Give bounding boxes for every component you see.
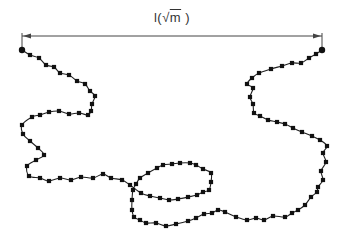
chain-bead	[101, 172, 105, 176]
chain-bead	[36, 146, 40, 150]
chain-bead	[38, 176, 42, 180]
chain-bead	[250, 76, 254, 80]
chain-bead	[319, 169, 323, 173]
chain-bead	[79, 175, 83, 179]
chain-bead	[176, 197, 180, 201]
chain-bead	[27, 174, 31, 178]
chain-bead	[86, 113, 90, 117]
chain-bead	[248, 95, 252, 99]
chain-bead	[290, 61, 294, 65]
chain-bead	[321, 178, 325, 182]
chain-bead	[194, 163, 198, 167]
chain-bead	[195, 193, 199, 197]
chain-bead	[300, 130, 304, 134]
polymer-chain-diagram	[0, 0, 344, 236]
chain-bead	[132, 215, 136, 219]
chain-bead	[131, 188, 135, 192]
chain-bead	[47, 110, 51, 114]
chain-bead	[130, 208, 134, 212]
chain-bead	[77, 111, 81, 115]
chain-bead	[303, 203, 307, 207]
chain-bead	[251, 102, 255, 106]
chain-bead	[257, 71, 261, 75]
chain-bead	[47, 179, 51, 183]
chain-bead	[167, 198, 171, 202]
chain-bead	[271, 214, 275, 218]
chain-bead	[202, 212, 206, 216]
chain-bead	[324, 160, 328, 164]
chain-bead	[154, 221, 158, 225]
chain-bead	[130, 198, 134, 202]
chain-bead	[67, 73, 71, 77]
chain-bead	[139, 191, 143, 195]
chain-end-point	[319, 47, 325, 53]
chain-bead	[251, 86, 255, 90]
chain-bead	[138, 218, 142, 222]
label-prefix: l(	[154, 10, 162, 25]
chain-bead	[194, 216, 198, 220]
chain-bead	[109, 176, 113, 180]
chain-bead	[188, 161, 192, 165]
chain-bead	[164, 224, 168, 228]
chain-start-point	[19, 47, 25, 53]
end-to-end-dimension-arrow	[22, 33, 322, 47]
chain-bead	[269, 67, 273, 71]
chain-bead	[120, 178, 124, 182]
chain-bead	[266, 118, 270, 122]
chain-bead	[44, 63, 48, 67]
chain-bead	[210, 211, 214, 215]
chain-bead	[134, 182, 138, 186]
chain-bead	[158, 196, 162, 200]
chain-bead	[88, 89, 92, 93]
chain-bead	[262, 218, 266, 222]
chain-bead	[186, 195, 190, 199]
sqrt-symbol: √	[162, 10, 170, 25]
chain-bead	[42, 153, 46, 157]
label-suffix: )	[185, 10, 190, 25]
chain-bead	[148, 194, 152, 198]
chain-bead	[34, 158, 38, 162]
chain-bead	[144, 221, 148, 225]
label-radicand: m	[170, 10, 181, 25]
chain-bead	[28, 53, 32, 57]
chain-bead	[155, 166, 159, 170]
right-arrowhead-icon	[313, 34, 321, 39]
chain-bead	[30, 115, 34, 119]
chain-bead	[83, 82, 87, 86]
chain-bead	[290, 211, 294, 215]
chain-bead	[216, 208, 220, 212]
chain-bead	[252, 111, 256, 115]
chain-bead	[28, 139, 32, 143]
chain-bead	[178, 161, 182, 165]
chain-bead	[280, 64, 284, 68]
chain-bead	[52, 65, 56, 69]
chain-bead	[91, 176, 95, 180]
chain-bead	[321, 151, 325, 155]
chain-bead	[318, 138, 322, 142]
end-to-end-length-label: l(√m )	[0, 10, 344, 25]
chain-bead	[90, 102, 94, 106]
chain-bead	[186, 219, 190, 223]
chain-bead	[201, 167, 205, 171]
chain-bead	[207, 188, 211, 192]
chain-bead	[291, 126, 295, 130]
chain-bead	[138, 176, 142, 180]
chain-endpoints	[19, 47, 325, 53]
chain-bead	[69, 178, 73, 182]
chain-bead	[307, 56, 311, 60]
chain-bead	[299, 61, 303, 65]
chain-bead	[314, 52, 318, 56]
chain-bead	[25, 164, 29, 168]
chain-bead	[170, 162, 174, 166]
chain-bead	[89, 109, 93, 113]
chain-bead	[325, 144, 329, 148]
left-arrowhead-icon	[23, 34, 31, 39]
chain-bead	[283, 122, 287, 126]
chain-bead	[254, 216, 258, 220]
chain-bead	[309, 195, 313, 199]
chain-bead	[296, 208, 300, 212]
chain-bead	[283, 215, 287, 219]
chain-bead	[234, 215, 238, 219]
chain-bead	[75, 79, 79, 83]
chain-bead	[93, 94, 97, 98]
